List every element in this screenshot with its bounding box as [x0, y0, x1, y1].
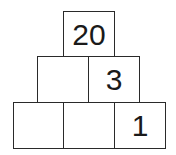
pyramid-cell-r3-c3: 1 [114, 102, 166, 149]
pyramid-cell-r3-c2 [63, 102, 115, 149]
cell-value: 1 [132, 109, 149, 143]
pyramid-cell-r3-c1 [13, 102, 65, 149]
cell-value: 3 [106, 63, 123, 97]
number-pyramid: 20 3 1 [0, 0, 176, 155]
cell-value: 20 [72, 18, 105, 52]
pyramid-cell-r2-c2: 3 [88, 56, 140, 103]
pyramid-cell-r2-c1 [37, 56, 89, 103]
pyramid-cell-r1-c1: 20 [63, 11, 115, 58]
